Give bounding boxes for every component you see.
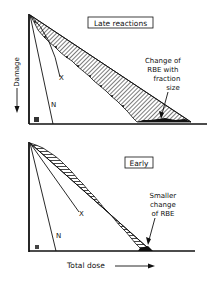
top-panel-title: Late reactions	[94, 19, 147, 28]
bottom-panel-title: Early	[130, 159, 150, 168]
arrow-icon	[146, 237, 151, 245]
curve-n-label: N	[51, 101, 56, 109]
top-annotation: Change of RBE with fraction size	[145, 57, 183, 92]
x-axis-label: Total dose	[66, 261, 105, 270]
y-axis-label: Damage	[13, 57, 21, 87]
bottom-panel: Early X N Smaller change of RBE Total do…	[29, 142, 195, 270]
arrow-down-icon	[15, 106, 20, 113]
rbe-diagram: Late reactions X N Damage Change of RBE …	[0, 0, 217, 284]
curve-x-label: X	[79, 210, 84, 218]
arrow-right-icon	[148, 264, 155, 269]
bottom-annotation: Smaller change of RBE	[150, 192, 179, 218]
top-panel: Late reactions X N Damage Change of RBE …	[13, 14, 207, 124]
curve-n-label: N	[56, 232, 61, 240]
curve-x-label: X	[59, 74, 64, 82]
